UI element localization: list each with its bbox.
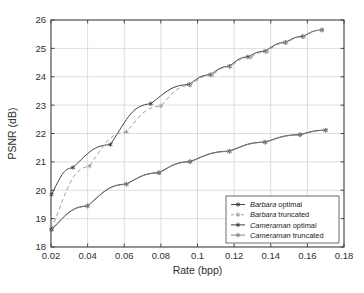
legend-label-italic: Barbara [250,210,278,219]
y-tick-label: 25 [35,43,46,54]
y-tick-label: 18 [35,241,46,252]
y-tick-label: 24 [35,71,46,82]
x-tick-label: 0.06 [115,250,134,261]
x-axis-title: Rate (bpp) [173,264,223,276]
legend-label-3: Cameraman truncated [250,231,324,240]
legend-box[interactable]: Barbara optimalBarbara truncatedCamerama… [226,196,339,243]
legend-label-italic: Cameraman [250,231,293,240]
legend-label-italic: Barbara [250,200,278,209]
rate-distortion-chart: 0.020.040.060.080.10.120.140.160.1818192… [0,0,364,293]
legend-label-plain: optimal [278,200,302,209]
x-tick-label: 0.16 [298,250,317,261]
legend-label-2: Cameraman optimal [250,221,317,230]
legend-label-italic: Cameraman [250,221,293,230]
chart-figure: 0.020.040.060.080.10.120.140.160.1818192… [0,0,364,293]
legend-label-plain: truncated [293,231,324,240]
legend-label-plain: truncated [278,210,309,219]
y-tick-label: 20 [35,185,46,196]
y-tick-label: 26 [35,14,46,25]
legend-label-plain: optimal [293,221,317,230]
y-tick-label: 19 [35,213,46,224]
legend-label-1: Barbara truncated [250,210,309,219]
y-axis-title: PSNR (dB) [6,108,18,160]
y-tick-label: 22 [35,128,46,139]
x-tick-label: 0.1 [191,250,204,261]
x-tick-label: 0.18 [335,250,354,261]
x-tick-label: 0.04 [78,250,97,261]
y-tick-label: 21 [35,156,46,167]
legend-label-0: Barbara optimal [250,200,303,209]
x-tick-label: 0.14 [262,250,281,261]
y-tick-label: 23 [35,100,46,111]
x-tick-label: 0.08 [152,250,171,261]
x-tick-label: 0.12 [225,250,244,261]
